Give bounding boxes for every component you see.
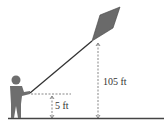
person-icon — [10, 76, 30, 119]
kite-string — [30, 41, 92, 93]
kite-height-label: 105 ft — [103, 77, 127, 87]
person-height-label: 5 ft — [55, 101, 69, 111]
diagram-canvas — [0, 0, 166, 132]
kite-icon — [92, 7, 120, 41]
